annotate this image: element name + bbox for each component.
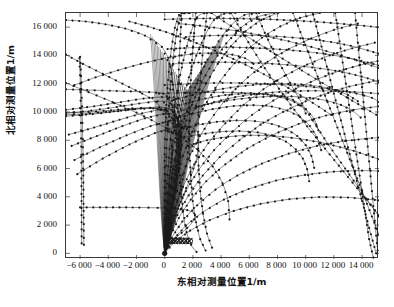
y-tick-label: 10 000 — [32, 106, 61, 115]
y-tick-label: 14 000 — [32, 50, 61, 59]
x-tick-label: 12 000 — [321, 260, 346, 271]
x-tick-label: 8 000 — [266, 260, 286, 271]
figure-container: 北相对测量位置1/m 02 0004 0006 0008 00010 00012… — [0, 0, 394, 307]
y-tick-label: 0 — [53, 248, 62, 257]
y-tick-label: 2 000 — [37, 220, 61, 229]
x-tick-label: −4 000 — [95, 260, 120, 271]
y-tick-label: 8 000 — [37, 135, 61, 144]
plot-area — [65, 12, 378, 258]
y-tick-label: 16 000 — [32, 22, 61, 31]
trajectory-lines — [66, 13, 379, 259]
y-tick-label: 6 000 — [37, 163, 61, 172]
x-axis-tick-labels: −6 000−4 000−2 00002 0004 0006 0008 0001… — [65, 260, 378, 274]
x-tick-label: 14 000 — [349, 260, 374, 271]
x-tick-label: 2 000 — [182, 260, 202, 271]
x-tick-label: −6 000 — [66, 260, 91, 271]
x-tick-label: −2 000 — [123, 260, 148, 271]
x-tick-label: 0 — [161, 260, 166, 271]
x-tick-label: 4 000 — [210, 260, 230, 271]
y-axis-tick-labels: 02 0004 0006 0008 00010 00012 00014 0001… — [0, 12, 61, 258]
x-axis-title: 东相对测量位置1/m — [65, 276, 378, 288]
x-tick-label: 10 000 — [292, 260, 317, 271]
y-tick-label: 12 000 — [32, 78, 61, 87]
x-tick-label: 6 000 — [238, 260, 258, 271]
y-tick-label: 4 000 — [37, 191, 61, 200]
